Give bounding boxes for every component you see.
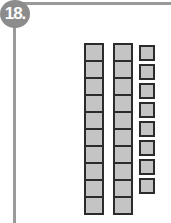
margin-rule: [13, 20, 16, 223]
unit-cube: [139, 83, 155, 99]
unit-cube: [139, 45, 155, 61]
unit-cube: [139, 140, 155, 156]
problem-number-badge: 18.: [0, 0, 30, 28]
header-rule: [20, 2, 171, 5]
rod-unit-square: [113, 196, 133, 215]
unit-cube: [139, 178, 155, 194]
unit-cube: [139, 102, 155, 118]
tens-rod-2: [113, 43, 133, 215]
tens-rod-1: [84, 43, 104, 215]
unit-cube: [139, 121, 155, 137]
unit-cube: [139, 159, 155, 175]
unit-cube: [139, 64, 155, 80]
rod-unit-square: [84, 196, 104, 215]
ones-cubes: [139, 45, 155, 197]
